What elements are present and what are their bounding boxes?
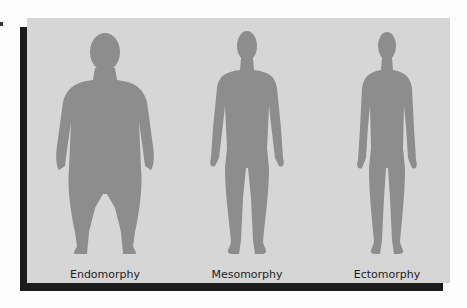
somatotype-panel: Endomorphy Mesomorphy Ectomorphy (27, 18, 450, 283)
figure-label-endomorphy: Endomorphy (55, 268, 155, 281)
endomorph-silhouette-icon (55, 18, 155, 268)
figure-label-mesomorphy: Mesomorphy (197, 268, 297, 281)
ectomorph-silhouette-icon (352, 18, 422, 268)
panel-shadow-bottom (20, 282, 443, 291)
figure-label-ectomorphy: Ectomorphy (337, 268, 437, 281)
corner-mark (0, 22, 3, 26)
mesomorph-silhouette-icon (207, 18, 287, 268)
